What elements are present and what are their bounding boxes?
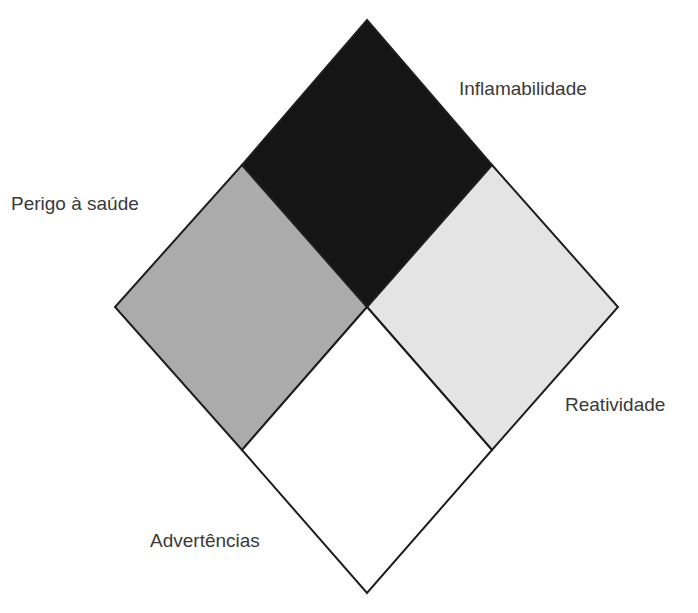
health-hazard-label: Perigo à saúde xyxy=(11,194,139,213)
hazard-diamond xyxy=(0,0,698,613)
flammability-label: Inflamabilidade xyxy=(459,79,587,98)
reactivity-label: Reatividade xyxy=(565,395,665,414)
warnings-label: Advertências xyxy=(150,531,260,550)
